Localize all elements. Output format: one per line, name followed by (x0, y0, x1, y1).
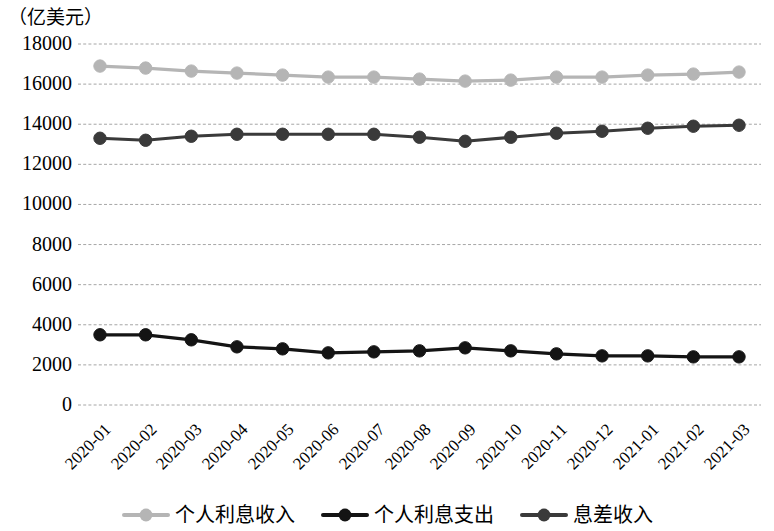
legend-item[interactable]: 个人利息收入 (122, 505, 295, 525)
data-point (185, 334, 197, 346)
data-point (368, 346, 380, 358)
data-point (505, 131, 517, 143)
data-point (413, 73, 425, 85)
data-point (322, 128, 334, 140)
series-2 (94, 329, 745, 363)
legend-label: 个人利息支出 (374, 505, 494, 525)
plot-area (0, 0, 774, 531)
data-point (139, 329, 151, 341)
data-point (185, 65, 197, 77)
data-point (642, 69, 654, 81)
data-point (596, 350, 608, 362)
data-point (687, 351, 699, 363)
data-point (368, 128, 380, 140)
data-point (505, 74, 517, 86)
data-point (94, 329, 106, 341)
line-marker-icon (122, 506, 170, 524)
data-point (276, 128, 288, 140)
data-point (687, 120, 699, 132)
data-point (596, 125, 608, 137)
line-marker-icon (520, 506, 568, 524)
legend-item[interactable]: 个人利息支出 (321, 505, 494, 525)
series-3 (94, 119, 745, 147)
data-point (459, 135, 471, 147)
data-point (94, 60, 106, 72)
series-1 (94, 60, 745, 87)
data-point (139, 134, 151, 146)
data-point (185, 130, 197, 142)
line-chart: （亿美元） 1800016000140001200010000800060004… (0, 0, 774, 531)
data-point (550, 127, 562, 139)
data-point (550, 71, 562, 83)
legend-label: 个人利息收入 (175, 505, 295, 525)
chart-legend: 个人利息收入个人利息支出息差收入 (0, 498, 774, 531)
data-point (368, 71, 380, 83)
data-point (505, 345, 517, 357)
data-point (459, 75, 471, 87)
data-point (596, 71, 608, 83)
legend-label: 息差收入 (573, 505, 653, 525)
data-point (733, 351, 745, 363)
data-point (550, 348, 562, 360)
data-point (231, 341, 243, 353)
line-marker-icon (321, 506, 369, 524)
data-point (94, 132, 106, 144)
data-point (413, 131, 425, 143)
data-point (733, 119, 745, 131)
data-point (231, 67, 243, 79)
data-point (322, 347, 334, 359)
data-point (459, 342, 471, 354)
data-point (231, 128, 243, 140)
data-point (733, 66, 745, 78)
data-point (642, 122, 654, 134)
data-point (642, 350, 654, 362)
legend-item[interactable]: 息差收入 (520, 505, 653, 525)
data-point (413, 345, 425, 357)
data-point (139, 62, 151, 74)
data-point (276, 343, 288, 355)
data-point (687, 68, 699, 80)
data-point (322, 71, 334, 83)
data-point (276, 69, 288, 81)
